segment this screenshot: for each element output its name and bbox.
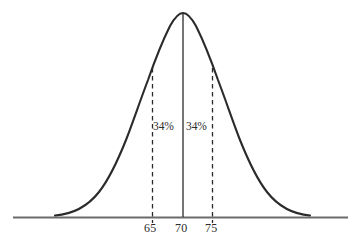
bell-curve-figure: 34% 34% 65 70 75 bbox=[0, 0, 360, 248]
x-tick-label-70: 70 bbox=[175, 222, 187, 234]
x-tick-label-75: 75 bbox=[205, 222, 217, 234]
annotation-34-percent-right: 34% bbox=[186, 121, 207, 133]
annotation-34-percent-left: 34% bbox=[153, 121, 174, 133]
bell-curve-plot bbox=[0, 0, 360, 248]
x-tick-label-65: 65 bbox=[144, 222, 156, 234]
